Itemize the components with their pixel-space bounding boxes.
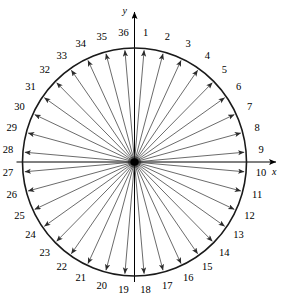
x-axis-label: x [271,166,277,177]
vector-ray-26 [28,162,134,191]
vector-ray-23 [57,162,135,241]
spoke-label-20: 20 [96,280,107,291]
vector-ray-11 [135,162,241,191]
spoke-label-1: 1 [143,27,148,38]
spoke-label-24: 24 [25,229,36,240]
spoke-label-17: 17 [162,280,173,291]
spoke-label-12: 12 [244,210,255,221]
spoke-label-16: 16 [183,272,194,283]
vector-ray-22 [71,162,134,254]
spoke-label-18: 18 [140,284,151,295]
spoke-label-2: 2 [165,31,170,42]
vector-ray-28 [25,152,135,162]
center-hub [128,156,141,168]
vector-ray-17 [135,162,163,270]
spoke-label-30: 30 [14,101,25,112]
vector-ray-33 [71,70,134,162]
spoke-label-23: 23 [39,247,50,258]
spoke-label-19: 19 [118,284,129,295]
spoke-label-21: 21 [76,272,87,283]
vector-ray-36 [125,50,135,162]
vector-ray-32 [57,83,135,162]
spoke-label-34: 34 [76,38,87,49]
spoke-label-8: 8 [255,122,260,133]
vector-ray-13 [135,162,225,226]
spoke-label-26: 26 [7,189,18,200]
spoke-label-33: 33 [56,50,67,61]
spoke-label-27: 27 [3,167,14,178]
spoke-label-31: 31 [25,81,36,92]
radial-vector-figure: 1234567891011121314151617181920212223242… [0,0,288,302]
spoke-label-32: 32 [39,64,50,75]
spoke-label-13: 13 [233,229,244,240]
spoke-label-36: 36 [118,27,129,38]
vector-ray-5 [135,83,213,162]
vector-ray-29 [28,133,134,162]
spoke-label-28: 28 [3,144,14,155]
spoke-label-14: 14 [219,247,230,258]
spoke-label-35: 35 [96,31,107,42]
vector-ray-34 [88,60,134,162]
vector-ray-8 [135,133,241,162]
spoke-label-11: 11 [252,189,262,200]
spoke-label-25: 25 [14,210,25,221]
vector-ray-31 [44,98,134,162]
vector-ray-19 [125,162,135,274]
vector-ray-3 [135,60,181,162]
spoke-label-29: 29 [7,122,18,133]
vector-ray-16 [135,162,181,264]
figure-canvas: 1234567891011121314151617181920212223242… [0,0,288,302]
vector-ray-2 [135,54,163,162]
spoke-label-10: 10 [256,167,267,178]
vector-ray-1 [135,50,145,162]
spoke-label-15: 15 [202,261,213,272]
vector-ray-7 [135,115,235,162]
vector-ray-24 [44,162,134,226]
vector-ray-9 [135,152,245,162]
vector-ray-10 [135,162,245,172]
vector-ray-14 [135,162,213,241]
vector-ray-4 [135,70,198,162]
vector-ray-6 [135,98,225,162]
vector-ray-18 [135,162,145,274]
y-axis-label: y [122,5,128,16]
spoke-label-9: 9 [258,144,263,155]
vector-ray-21 [88,162,134,264]
spoke-label-7: 7 [247,101,252,112]
vector-ray-20 [106,162,134,270]
center-blob-inner [130,158,138,166]
vector-ray-27 [25,162,135,172]
spoke-label-5: 5 [222,64,227,75]
spoke-label-4: 4 [205,50,211,61]
spoke-label-3: 3 [186,38,191,49]
vector-ray-25 [35,162,135,209]
vector-ray-15 [135,162,198,254]
spoke-label-6: 6 [236,81,241,92]
vector-ray-30 [35,115,135,162]
vector-ray-12 [135,162,235,209]
spoke-label-22: 22 [56,261,67,272]
vector-ray-35 [106,54,134,162]
